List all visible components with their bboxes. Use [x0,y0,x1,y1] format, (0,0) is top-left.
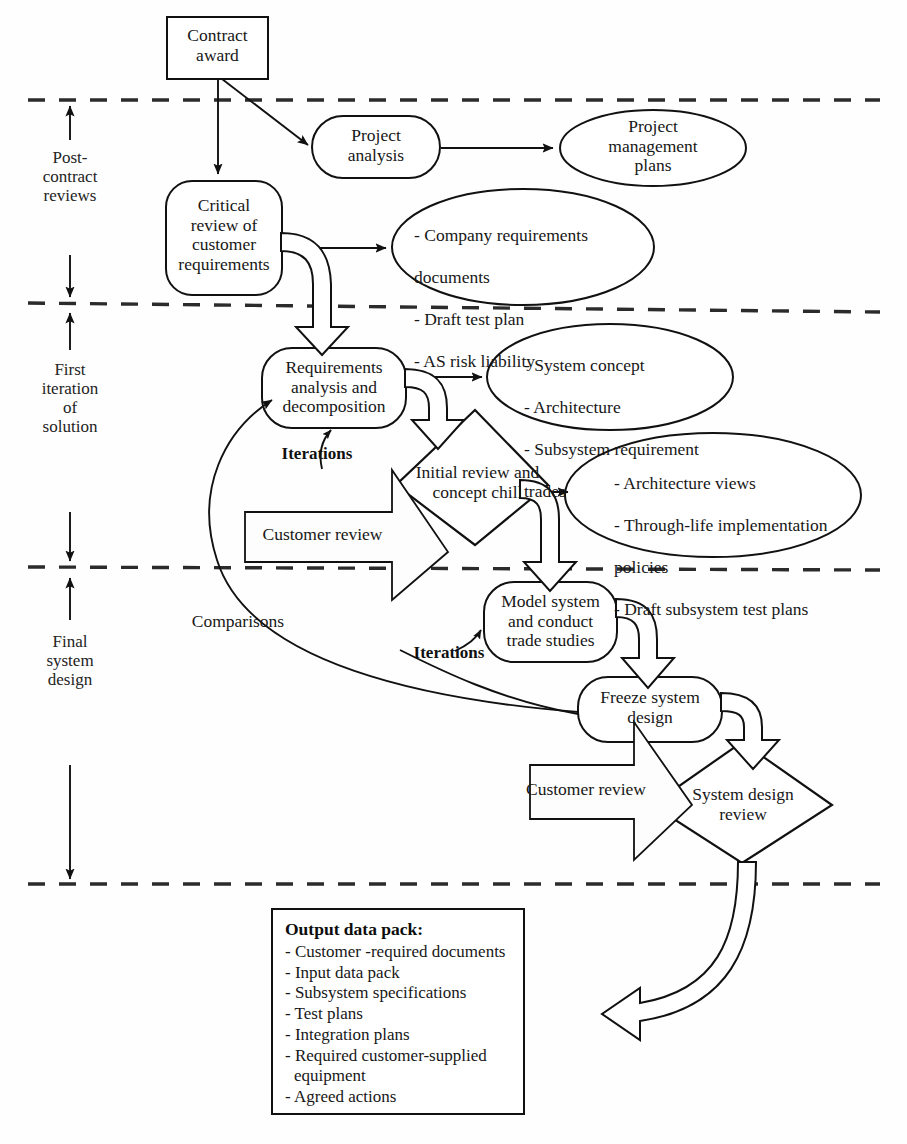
output-data-pack-item: - Customer -required documents [285,942,513,963]
output-data-pack-item: - Agreed actions [285,1087,513,1108]
node-project-analysis-shape [312,116,440,178]
output-data-pack-item: - Test plans [285,1004,513,1025]
output-data-pack-item: - Input data pack [285,963,513,984]
node-critical-review-shape [166,181,282,295]
output-data-pack-item: - Integration plans [285,1025,513,1046]
block-arrow-review-to-output-pack [602,862,756,1040]
output-data-pack-title: Output data pack: [285,919,513,940]
edge-contract-to-project-analysis [222,79,308,145]
artifact-concept-outputs-shape [565,433,861,557]
output-data-pack-list: - Customer -required documents - Input d… [285,942,513,1108]
output-data-pack[interactable]: Output data pack: - Customer -required d… [271,908,525,1115]
node-requirements-analysis-shape [262,348,406,428]
artifact-post-contract-outputs-shape [392,189,654,305]
node-model-system-shape [484,582,617,662]
output-data-pack-item: - Required customer-supplied equipment [285,1046,513,1087]
diagram-canvas: Post- contract reviews First iteration o… [0,0,907,1144]
divider-line-3 [28,567,880,570]
divider-line-2 [28,303,880,312]
block-arrow-critical-to-requirements [281,233,348,355]
artifact-requirements-outputs-shape [487,324,733,430]
output-data-pack-item: - Subsystem specifications [285,983,513,1004]
edge-iterations-bottom [455,630,481,651]
block-arrow-model-to-freeze [616,599,674,688]
node-project-management-plans-shape [560,110,746,186]
node-contract-award-shape [167,17,268,79]
edge-iterations-top [320,430,331,469]
